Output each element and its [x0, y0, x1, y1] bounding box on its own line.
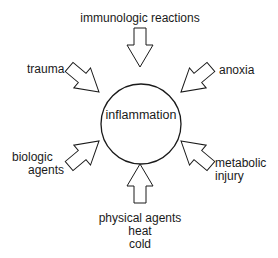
- label-trauma: trauma: [27, 63, 64, 76]
- arrow-bottom-icon: [127, 164, 153, 203]
- label-injury: injury: [215, 170, 266, 183]
- arrow-lower-right-icon: [173, 131, 220, 176]
- label-anoxia: anoxia: [219, 64, 254, 77]
- inflammation-circle: [101, 84, 181, 164]
- label-metabolic-injury: metabolic injury: [215, 157, 266, 183]
- label-biologic-agents: biologic agents: [12, 151, 64, 177]
- arrow-lower-left-icon: [61, 131, 108, 176]
- arrow-upper-left-icon: [61, 57, 108, 102]
- label-immunologic-reactions: immunologic reactions: [70, 12, 210, 25]
- arrow-top-icon: [127, 28, 153, 67]
- center-label: inflammation: [101, 109, 181, 122]
- arrow-upper-right-icon: [173, 57, 220, 102]
- label-agents: agents: [12, 164, 64, 177]
- label-physical-agents: physical agents heat cold: [90, 212, 190, 251]
- label-cold: cold: [90, 238, 190, 251]
